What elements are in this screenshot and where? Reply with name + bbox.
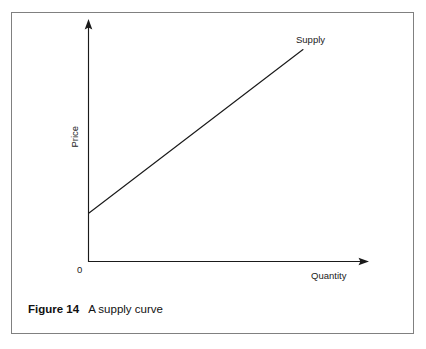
series-label-supply: Supply [296,35,325,45]
figure-caption: Figure 14A supply curve [28,303,163,317]
figure-container: 0 Quantity Price Supply Figure 14A suppl… [0,0,426,349]
figure-border [11,12,414,334]
caption-title: A supply curve [88,303,163,315]
origin-label: 0 [77,265,82,275]
x-axis-label: Quantity [311,271,346,281]
caption-figure-number: Figure 14 [28,303,79,315]
y-axis-label: Price [70,112,80,162]
